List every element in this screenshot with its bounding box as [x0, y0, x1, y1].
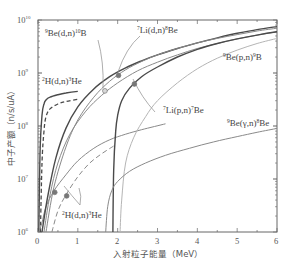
label-be-pn-b: 9Be(p,n)9B — [223, 52, 262, 62]
label-h-dn-he-bottom: 2H(d,n)3He — [62, 210, 102, 220]
x-axis-title: 入射粒子能量（MeV） — [113, 249, 203, 259]
label-li-pn-be: 7Li(p,n)7Be — [163, 105, 204, 115]
x-tick-0: 0 — [35, 236, 39, 246]
series-curve-2 — [39, 124, 166, 232]
y-tick-1e6: 106 — [17, 227, 29, 237]
x-tick-4: 4 — [195, 236, 200, 246]
x-tick-3: 3 — [155, 236, 159, 246]
y-tick-labels: 106 107 108 109 1010 — [17, 15, 31, 237]
data-marker-2 — [132, 82, 137, 87]
label-be-gn-be: 9Be(γ,n)8Be — [227, 118, 269, 128]
x-tick-labels: 0 1 2 3 4 5 6 — [35, 236, 278, 246]
y-tick-1e7: 107 — [17, 174, 29, 184]
y-tick-1e10: 1010 — [17, 15, 31, 25]
y-tick-1e9: 109 — [17, 68, 29, 78]
data-marker-4 — [64, 193, 69, 198]
data-marker-3 — [52, 190, 57, 195]
y-axis-title: 中子产额（n/s/uA） — [6, 86, 16, 167]
data-markers — [52, 73, 136, 198]
label-be-dn-b: 9Be(d,n)10B — [45, 28, 87, 38]
data-marker-1 — [116, 73, 121, 78]
x-tick-2: 2 — [115, 236, 119, 246]
x-tick-5: 5 — [235, 236, 239, 246]
label-h-dn-he-top: 2H(d,n)3He — [42, 76, 82, 86]
label-li-dn-be: 7Li(d,n)8Be — [137, 25, 178, 35]
y-tick-1e8: 108 — [17, 121, 29, 131]
data-marker-0 — [103, 88, 108, 93]
x-tick-6: 6 — [274, 236, 278, 246]
x-tick-1: 1 — [75, 236, 79, 246]
neutron-yield-chart: 106 107 108 109 1010 0 1 2 3 4 5 6 入射粒子能… — [0, 0, 289, 259]
